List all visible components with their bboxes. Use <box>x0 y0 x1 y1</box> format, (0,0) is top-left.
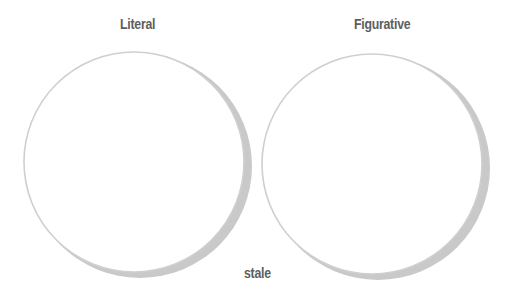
venn-diagram <box>0 0 515 300</box>
overlap-label: stale <box>244 264 271 281</box>
circle-figurative <box>262 54 490 280</box>
circle-label-figurative: Figurative <box>354 15 410 32</box>
circle-label-literal: Literal <box>120 15 155 32</box>
circle-literal <box>24 52 252 278</box>
